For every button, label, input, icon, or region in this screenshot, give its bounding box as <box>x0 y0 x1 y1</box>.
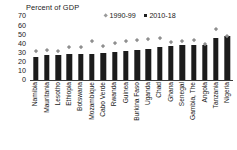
bar-group <box>222 16 233 80</box>
x-tick-label: Angola <box>202 82 209 103</box>
x-tick-label: Burkina Faso <box>134 82 141 121</box>
bar <box>157 47 162 80</box>
data-point-marker <box>214 27 219 32</box>
chart-title: Percent of GDP <box>26 3 79 12</box>
bar-group <box>30 16 41 80</box>
bar <box>78 54 83 80</box>
x-tick-label: Namibia <box>32 82 39 106</box>
bar <box>180 45 185 80</box>
y-tick-label: 60 <box>18 22 26 29</box>
bar-group <box>41 16 52 80</box>
bar-group <box>75 16 86 80</box>
bar <box>89 54 94 81</box>
bar-group <box>177 16 188 80</box>
bar <box>33 57 38 80</box>
data-point-marker <box>191 38 196 43</box>
x-tick-label: Gambia, The <box>190 82 197 120</box>
y-tick-label: 20 <box>18 58 26 65</box>
bar <box>213 38 218 80</box>
y-tick-label: 30 <box>18 49 26 56</box>
data-point-marker <box>78 45 83 50</box>
bar-group <box>165 16 176 80</box>
x-tick-label: Senegal <box>179 82 186 106</box>
data-point-marker <box>56 48 61 53</box>
data-point-marker <box>33 49 38 54</box>
data-point-marker <box>180 38 185 43</box>
x-tick-label: Botswana <box>77 82 84 111</box>
x-tick-label: Guinea <box>123 82 130 103</box>
bar-group <box>64 16 75 80</box>
y-tick-label: 70 <box>18 12 26 19</box>
data-point-marker <box>146 37 151 42</box>
y-tick-label: 0 <box>22 76 26 83</box>
y-tick-label: 10 <box>18 67 26 74</box>
data-point-marker <box>169 40 174 45</box>
x-tick-label: Mauritania <box>44 82 51 113</box>
bar-group <box>199 16 210 80</box>
bar <box>191 45 196 80</box>
bar <box>134 50 139 80</box>
bar-group <box>86 16 97 80</box>
data-point-marker <box>135 38 140 43</box>
x-tick-label: Nigeria <box>224 82 231 103</box>
data-point-marker <box>67 45 72 50</box>
bar <box>123 51 128 80</box>
bar-group <box>132 16 143 80</box>
bar <box>168 46 173 80</box>
bar-group <box>109 16 120 80</box>
x-tick-label: Chad <box>156 82 163 98</box>
bar-group <box>143 16 154 80</box>
bar <box>112 52 117 80</box>
bar <box>225 36 230 80</box>
data-point-marker <box>157 36 162 41</box>
bar <box>67 54 72 80</box>
data-point-marker <box>90 38 95 43</box>
data-point-marker <box>124 39 129 44</box>
bar <box>202 45 207 80</box>
x-tick-label: Tanzania <box>213 82 220 108</box>
chart-container: Percent of GDP 1990-99 2010-18 706050403… <box>0 0 237 150</box>
x-tick-label: Lesotho <box>55 82 62 105</box>
bar <box>44 55 49 80</box>
x-tick-label: Ghana <box>168 82 175 102</box>
x-tick-label: Rwanda <box>111 82 118 106</box>
x-tick-label: Uganda <box>145 82 152 105</box>
bar-group <box>53 16 64 80</box>
bar-group <box>210 16 221 80</box>
x-axis-category-labels: NamibiaMauritaniaLesothoEthiopiaBotswana… <box>30 82 233 148</box>
data-point-marker <box>112 41 117 46</box>
bar <box>101 53 106 80</box>
x-tick-label: Cabo Verde <box>100 82 107 117</box>
bar-group <box>98 16 109 80</box>
plot-area <box>30 16 233 80</box>
data-point-marker <box>101 44 106 49</box>
bar-group <box>120 16 131 80</box>
bar-group <box>154 16 165 80</box>
y-tick-label: 40 <box>18 40 26 47</box>
bar <box>146 49 151 80</box>
y-axis-tick-labels: 706050403020100 <box>0 0 26 150</box>
bar-group <box>188 16 199 80</box>
data-point-marker <box>45 48 50 53</box>
x-tick-label: Mozambique <box>89 82 96 120</box>
bar <box>55 55 60 80</box>
x-tick-label: Ethiopia <box>66 82 73 106</box>
y-tick-label: 50 <box>18 31 26 38</box>
